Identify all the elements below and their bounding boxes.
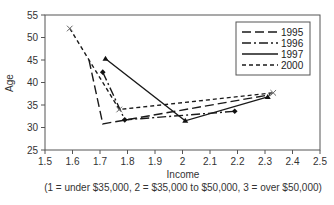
legend-label: 1997	[281, 49, 304, 60]
x-tick-label: 2.2	[231, 156, 245, 167]
x-tick-label: 2.1	[203, 156, 217, 167]
x-tick-label: 2	[180, 156, 186, 167]
x-marker	[67, 26, 73, 32]
x-tick-label: 2.3	[258, 156, 272, 167]
legend-label: 1995	[281, 27, 304, 38]
x-tick-label: 1.6	[66, 156, 80, 167]
y-tick-label: 40	[27, 77, 39, 88]
legend: 1995199619972000	[236, 22, 310, 75]
x-tick-label: 2.5	[313, 156, 327, 167]
diamond-marker	[122, 117, 128, 123]
x-tick-label: 1.9	[148, 156, 162, 167]
diamond-marker	[100, 69, 106, 75]
diamond-marker	[232, 109, 238, 115]
triangle-marker	[103, 56, 109, 61]
y-tick-label: 45	[27, 55, 39, 66]
legend-label: 1996	[281, 38, 304, 49]
y-axis-title: Age	[4, 74, 15, 92]
y-tick-label: 50	[27, 32, 39, 43]
x-axis-note: (1 = under $35,000, 2 = $35,000 to $50,0…	[44, 182, 322, 193]
x-tick-label: 1.8	[121, 156, 135, 167]
x-axis: 1.51.61.71.81.922.12.22.32.42.5	[38, 150, 327, 167]
line-chart: 25303540455055 1.51.61.71.81.922.12.22.3…	[0, 0, 334, 205]
y-axis: 25303540455055	[27, 10, 45, 156]
x-tick-label: 1.5	[38, 156, 52, 167]
x-axis-title: Income	[167, 169, 200, 180]
y-tick-label: 30	[27, 122, 39, 133]
y-tick-label: 35	[27, 100, 39, 111]
y-tick-label: 25	[27, 145, 39, 156]
y-tick-label: 55	[27, 10, 39, 21]
x-tick-label: 1.7	[93, 156, 107, 167]
series-1996	[100, 69, 238, 122]
x-tick-label: 2.4	[286, 156, 300, 167]
legend-label: 2000	[281, 60, 304, 71]
